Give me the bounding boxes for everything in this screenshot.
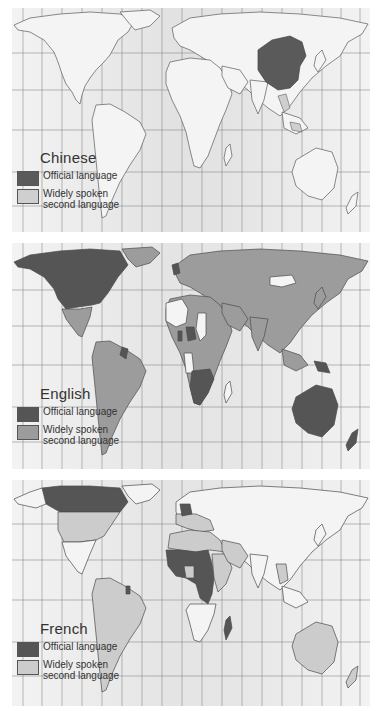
region-official-french-guiana bbox=[126, 586, 130, 594]
legend-label: Widely spokensecond language bbox=[43, 189, 119, 210]
region-official-france bbox=[180, 504, 192, 516]
legend-title: Chinese bbox=[40, 149, 119, 166]
swatch-official bbox=[17, 407, 39, 422]
swatch-second bbox=[17, 660, 39, 675]
legend-item-official: Official language bbox=[17, 407, 119, 422]
legend-chinese: Chinese Official language Widely spokens… bbox=[17, 149, 119, 213]
swatch-official bbox=[17, 171, 39, 186]
legend-item-official: Official language bbox=[17, 642, 119, 657]
legend-title: English bbox=[40, 385, 119, 402]
swatch-second bbox=[17, 189, 39, 204]
legend-item-second: Widely spokensecond language bbox=[17, 425, 119, 446]
legend-label: Widely spokensecond language bbox=[43, 660, 119, 681]
legend-item-official: Official language bbox=[17, 171, 119, 186]
map-panel-english: English Official language Widely spokens… bbox=[0, 237, 385, 471]
map-panel-french: French Official language Widely spokense… bbox=[0, 474, 385, 711]
region-official-canada bbox=[42, 486, 128, 512]
region-official-nigeria bbox=[186, 327, 196, 341]
legend-label: Official language bbox=[43, 171, 117, 182]
swatch-official bbox=[17, 642, 39, 657]
map-panel-chinese: Chinese Official language Widely spokens… bbox=[0, 0, 385, 234]
legend-french: French Official language Widely spokense… bbox=[17, 620, 119, 684]
legend-label: Official language bbox=[43, 642, 117, 653]
region-second-nigeria bbox=[184, 566, 194, 578]
legend-label: Official language bbox=[43, 407, 117, 418]
region-official-ghana bbox=[178, 331, 182, 341]
legend-item-second: Widely spokensecond language bbox=[17, 660, 119, 681]
legend-title: French bbox=[40, 620, 119, 637]
region-none-north-africa bbox=[166, 299, 188, 327]
region-none-angola bbox=[184, 353, 194, 373]
legend-item-second: Widely spokensecond language bbox=[17, 189, 119, 210]
legend-label: Widely spokensecond language bbox=[43, 425, 119, 446]
swatch-second bbox=[17, 425, 39, 440]
legend-english: English Official language Widely spokens… bbox=[17, 385, 119, 449]
